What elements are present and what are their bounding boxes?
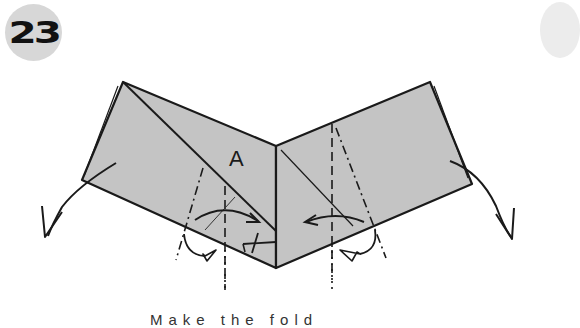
left-mountain-arrowhead xyxy=(203,250,216,261)
point-label-a: A xyxy=(229,146,244,171)
left-flap xyxy=(82,82,276,268)
right-mountain-arrowhead xyxy=(340,250,360,261)
step-caption: Make the fold xyxy=(150,311,410,328)
right-mountain-arrow xyxy=(360,230,375,254)
left-mountain-arrow xyxy=(184,234,205,256)
